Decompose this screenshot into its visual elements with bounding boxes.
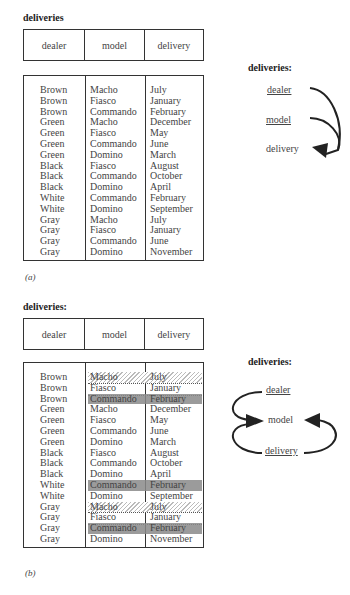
table-row: GreenDominoMarch bbox=[24, 437, 205, 448]
table-row: BrownFiascoJanuary bbox=[24, 96, 205, 107]
figure-a-header: dealer model delivery bbox=[23, 29, 204, 61]
cell-delivery: March bbox=[150, 437, 176, 448]
cell-dealer: White bbox=[40, 204, 64, 215]
cell-model: Domino bbox=[90, 491, 123, 502]
cell-dealer: Brown bbox=[40, 383, 67, 394]
cell-delivery: March bbox=[150, 150, 176, 161]
figure-b-caption: (b) bbox=[25, 568, 36, 578]
cell-delivery: January bbox=[150, 96, 181, 107]
header-delivery: delivery bbox=[144, 319, 203, 349]
figure-b-table-body: BrownMachoJulyBrownFiascoJanuaryBrownCom… bbox=[23, 362, 204, 548]
table-row: GrayDominoNovember bbox=[24, 534, 205, 545]
header-delivery: delivery bbox=[144, 30, 203, 60]
table-row: BrownFiascoJanuary bbox=[24, 383, 205, 394]
cell-model: Domino bbox=[90, 150, 123, 161]
cell-dealer: Green bbox=[40, 150, 64, 161]
figure-a-rows: BrownMachoJulyBrownFiascoJanuaryBrownCom… bbox=[24, 85, 205, 258]
cell-model: Domino bbox=[90, 247, 123, 258]
header-model: model bbox=[84, 30, 144, 60]
arrowhead-icon bbox=[246, 414, 264, 428]
figure-b-title: deliveries: bbox=[23, 301, 67, 312]
cell-model: Domino bbox=[90, 437, 123, 448]
cell-delivery: November bbox=[150, 247, 192, 258]
cell-dealer: Gray bbox=[40, 247, 60, 258]
table-row: GreenDominoMarch bbox=[24, 150, 205, 161]
cell-dealer: Gray bbox=[40, 534, 60, 545]
cell-model: Domino bbox=[90, 204, 123, 215]
figure-b-header: dealer model delivery bbox=[23, 318, 204, 350]
header-dealer: dealer bbox=[24, 30, 84, 60]
cell-delivery: September bbox=[150, 491, 193, 502]
diagram-a-arrows bbox=[220, 40, 350, 170]
table-row: WhiteDominoSeptember bbox=[24, 491, 205, 502]
figure-b-rows: BrownMachoJulyBrownFiascoJanuaryBrownCom… bbox=[24, 372, 205, 545]
cell-dealer: White bbox=[40, 491, 64, 502]
cell-model: Fiasco bbox=[90, 96, 116, 107]
arrowhead-icon bbox=[304, 413, 320, 428]
header-dealer: dealer bbox=[24, 319, 84, 349]
cell-delivery: January bbox=[150, 383, 181, 394]
figure-a-table-body: BrownMachoJulyBrownFiascoJanuaryBrownCom… bbox=[23, 75, 204, 261]
cell-dealer: Brown bbox=[40, 96, 67, 107]
header-model: model bbox=[84, 319, 144, 349]
figure-a-title: deliveries bbox=[23, 12, 64, 23]
arrowhead-icon bbox=[312, 143, 328, 158]
table-row: GrayDominoNovember bbox=[24, 247, 205, 258]
cell-delivery: November bbox=[150, 534, 192, 545]
diagram-b-arrows bbox=[220, 340, 350, 470]
cell-model: Fiasco bbox=[90, 383, 116, 394]
table-row: WhiteDominoSeptember bbox=[24, 204, 205, 215]
cell-model: Domino bbox=[90, 534, 123, 545]
cell-delivery: September bbox=[150, 204, 193, 215]
figure-a-caption: (a) bbox=[25, 272, 36, 282]
cell-dealer: Green bbox=[40, 437, 64, 448]
